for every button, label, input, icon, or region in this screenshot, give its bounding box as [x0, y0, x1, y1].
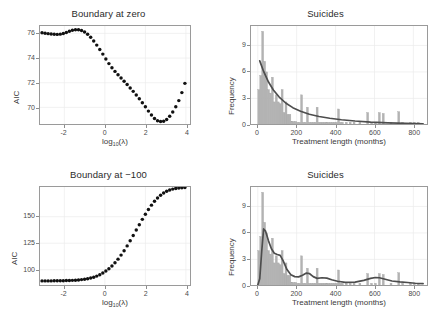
- x-tick-mark: [296, 125, 297, 128]
- y-tick-label: 9: [220, 41, 246, 48]
- x-tick-label: 0: [243, 290, 271, 297]
- y-axis-label-top-left: AIC: [12, 91, 21, 104]
- x-tick-mark: [375, 286, 376, 289]
- panel-title-top-left: Boundary at zero: [0, 8, 217, 19]
- panel-title-bottom-right: Suicides: [217, 169, 434, 180]
- x-tick-label: 600: [361, 290, 389, 297]
- y-tick-mark: [247, 232, 250, 233]
- x-axis-label-subscript: 10: [113, 141, 119, 147]
- x-axis-label-top-right: Treatment length (months): [250, 137, 428, 146]
- panel-bottom-right: Suicides Frequency 03690200400600800 Tre…: [217, 161, 434, 322]
- x-tick-label: 4: [173, 129, 201, 136]
- x-tick-mark: [105, 125, 106, 128]
- y-tick-mark: [36, 83, 39, 84]
- y-tick-label: 3: [220, 94, 246, 101]
- y-tick-label: 0: [220, 282, 246, 289]
- y-tick-label: 0: [220, 121, 246, 128]
- x-tick-mark: [64, 125, 65, 128]
- x-tick-mark: [105, 286, 106, 289]
- plot-frame-top-left: [39, 25, 191, 125]
- x-tick-mark: [146, 125, 147, 128]
- x-tick-label: 4: [173, 290, 201, 297]
- y-tick-label: 6: [220, 228, 246, 235]
- x-tick-label: 2: [132, 290, 160, 297]
- y-tick-label: 3: [220, 255, 246, 262]
- x-tick-label: -2: [50, 129, 78, 136]
- x-axis-label-arg: (λ): [119, 298, 128, 307]
- y-tick-label: 100: [9, 266, 35, 273]
- y-tick-mark: [36, 216, 39, 217]
- x-tick-mark: [257, 286, 258, 289]
- y-tick-mark: [247, 71, 250, 72]
- y-tick-mark: [36, 108, 39, 109]
- panel-title-bottom-left: Boundary at −100: [0, 169, 217, 180]
- y-tick-label: 70: [9, 104, 35, 111]
- plot-frame-bottom-left: [39, 186, 191, 286]
- x-tick-mark: [187, 286, 188, 289]
- x-tick-label: 0: [91, 290, 119, 297]
- y-tick-label: 6: [220, 67, 246, 74]
- y-tick-mark: [247, 259, 250, 260]
- y-axis-label-bottom-left: AIC: [10, 252, 19, 265]
- scatter-plot-bottom-left: [40, 187, 190, 286]
- scatter-plot-top-left: [40, 26, 190, 125]
- y-tick-mark: [36, 58, 39, 59]
- x-tick-mark: [257, 125, 258, 128]
- y-tick-mark: [36, 270, 39, 271]
- y-tick-label: 9: [220, 202, 246, 209]
- y-tick-mark: [36, 243, 39, 244]
- y-tick-mark: [247, 125, 250, 126]
- x-tick-mark: [336, 125, 337, 128]
- x-axis-label-top-left: log10(λ): [39, 137, 191, 146]
- y-tick-mark: [247, 286, 250, 287]
- y-tick-mark: [247, 98, 250, 99]
- figure-grid: Boundary at zero AIC 70727476-2024 log10…: [0, 0, 434, 322]
- panel-bottom-left: Boundary at −100 AIC 100125150-2024 log1…: [0, 161, 217, 322]
- y-tick-mark: [247, 45, 250, 46]
- x-axis-label-bottom-right: Treatment length (months): [250, 298, 428, 307]
- x-tick-mark: [336, 286, 337, 289]
- x-tick-mark: [64, 286, 65, 289]
- y-tick-label: 150: [9, 212, 35, 219]
- x-axis-label-arg: (λ): [119, 137, 128, 146]
- x-tick-mark: [296, 286, 297, 289]
- panel-title-top-right: Suicides: [217, 8, 434, 19]
- y-tick-mark: [247, 206, 250, 207]
- x-tick-mark: [414, 286, 415, 289]
- x-tick-label: 0: [91, 129, 119, 136]
- panel-top-right: Suicides Frequency 03690200400600800 Tre…: [217, 0, 434, 161]
- y-tick-label: 74: [9, 54, 35, 61]
- plot-frame-bottom-right: [250, 186, 428, 286]
- x-tick-label: 0: [243, 129, 271, 136]
- x-axis-label-subscript: 10: [113, 302, 119, 308]
- plot-frame-top-right: [250, 25, 428, 125]
- x-tick-label: 400: [322, 129, 350, 136]
- y-tick-label: 125: [9, 239, 35, 246]
- x-axis-label-base: log: [102, 298, 113, 307]
- histogram-top-right: [251, 26, 427, 125]
- x-tick-label: -2: [50, 290, 78, 297]
- x-tick-label: 2: [132, 129, 160, 136]
- x-tick-label: 800: [400, 290, 428, 297]
- x-axis-label-bottom-left: log10(λ): [39, 298, 191, 307]
- y-tick-label: 72: [9, 79, 35, 86]
- x-tick-mark: [187, 125, 188, 128]
- x-tick-mark: [414, 125, 415, 128]
- histogram-bottom-right: [251, 187, 427, 286]
- y-tick-label: 76: [9, 29, 35, 36]
- y-tick-mark: [36, 33, 39, 34]
- x-tick-label: 200: [282, 290, 310, 297]
- x-tick-mark: [146, 286, 147, 289]
- x-tick-label: 200: [282, 129, 310, 136]
- x-tick-mark: [375, 125, 376, 128]
- x-axis-label-base: log: [102, 137, 113, 146]
- x-tick-label: 600: [361, 129, 389, 136]
- panel-top-left: Boundary at zero AIC 70727476-2024 log10…: [0, 0, 217, 161]
- x-tick-label: 400: [322, 290, 350, 297]
- x-tick-label: 800: [400, 129, 428, 136]
